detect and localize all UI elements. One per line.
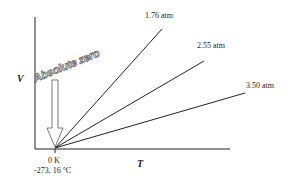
down-arrow-icon	[47, 80, 63, 147]
label-1-76-atm: 1.76 atm	[145, 11, 173, 20]
line-2-55-atm	[55, 61, 204, 148]
x-axis-label: T	[137, 158, 143, 169]
origin-celsius-label: -273, 16 °C	[34, 166, 71, 175]
origin-kelvin-label: 0 K	[48, 156, 60, 165]
line-1-76-atm	[55, 29, 162, 148]
label-3-50-atm: 3.50 atm	[246, 81, 274, 90]
line-3-50-atm	[55, 93, 245, 148]
y-axis-label: V	[17, 73, 24, 84]
label-2-55-atm: 2.55 atm	[197, 41, 225, 50]
diagram-canvas	[0, 0, 293, 183]
